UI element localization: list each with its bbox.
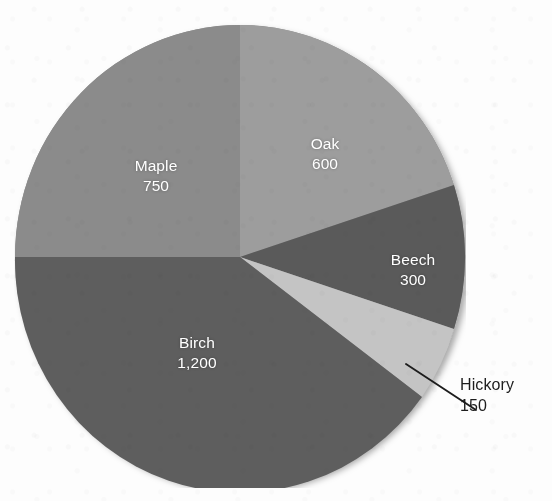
slice-label-maple: Maple 750 bbox=[114, 156, 198, 196]
slice-label-birch: Birch 1,200 bbox=[154, 333, 240, 373]
slice-label-beech-value: 300 bbox=[374, 270, 452, 290]
slice-label-oak-value: 600 bbox=[289, 154, 361, 174]
pie-chart-plot-area: Oak 600 Maple 750 Beech 300 Birch 1,200 bbox=[14, 22, 466, 488]
slice-label-birch-value: 1,200 bbox=[154, 353, 240, 373]
slice-label-hickory-name: Hickory bbox=[460, 375, 550, 396]
pie-slice-maple[interactable] bbox=[15, 25, 240, 257]
slice-label-maple-value: 750 bbox=[114, 176, 198, 196]
slice-label-maple-name: Maple bbox=[114, 156, 198, 176]
slice-label-beech-name: Beech bbox=[374, 250, 452, 270]
slice-label-oak: Oak 600 bbox=[289, 134, 361, 174]
pie-chart-figure: Oak 600 Maple 750 Beech 300 Birch 1,200 … bbox=[0, 0, 552, 501]
slice-label-oak-name: Oak bbox=[289, 134, 361, 154]
slice-label-beech: Beech 300 bbox=[374, 250, 452, 290]
slice-label-birch-name: Birch bbox=[154, 333, 240, 353]
slice-label-hickory: Hickory 150 bbox=[460, 375, 550, 417]
slice-label-hickory-value: 150 bbox=[460, 396, 550, 417]
